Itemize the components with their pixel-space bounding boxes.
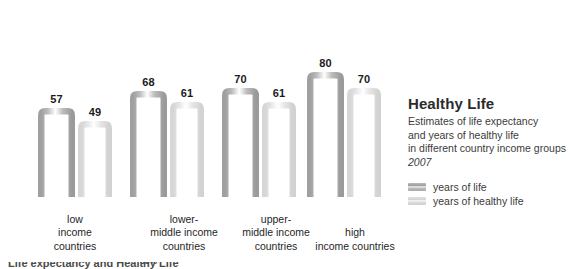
chart-subtitle-line-3: in different country income groups <box>408 142 573 156</box>
bar-shape-icon <box>222 88 259 197</box>
legend-label: years of healthy life <box>433 195 523 208</box>
chart-subtitle-line-1: Estimates of life expectancy <box>408 115 573 129</box>
bar-value-label: 49 <box>78 106 112 118</box>
category-label-line: upper- <box>210 213 342 227</box>
bar-value-label: 68 <box>130 76 167 88</box>
legend-swatch-light-icon <box>408 197 426 205</box>
bar-shape-icon <box>347 88 381 197</box>
bar-shape-icon <box>38 108 75 197</box>
category-label: lowincomecountries <box>30 213 120 254</box>
bar: 70 <box>222 88 259 197</box>
bar-chart: 5768708049616170lowincomecountrieslower-… <box>0 0 400 269</box>
legend-item-years-of-healthy-life: years of healthy life <box>408 194 573 208</box>
bar-value-label: 57 <box>38 93 75 105</box>
category-label-line: income countries <box>300 240 410 254</box>
bar: 80 <box>307 72 344 197</box>
legend-swatch-dark-icon <box>408 183 426 191</box>
bar-value-label: 70 <box>347 73 381 85</box>
bar-value-label: 61 <box>170 87 204 99</box>
bar-shape-icon <box>262 102 296 197</box>
bar-shape-icon <box>170 102 204 197</box>
bar-shape-icon <box>307 72 344 197</box>
chart-year: 2007 <box>408 156 573 170</box>
bar: 57 <box>38 108 75 197</box>
chart-subtitle-line-2: and years of healthy life <box>408 129 573 143</box>
legend-item-years-of-life: years of life <box>408 180 573 194</box>
category-label-line: countries <box>30 240 120 254</box>
category-label: highincome countries <box>300 226 410 253</box>
chart-title: Healthy Life <box>408 95 573 113</box>
info-panel: Healthy Life Estimates of life expectanc… <box>408 95 573 208</box>
category-label-line: high <box>300 226 410 240</box>
bar-value-label: 70 <box>222 73 259 85</box>
footer-percent: 85% <box>140 262 157 266</box>
legend: years of life years of healthy life <box>408 180 573 208</box>
bar-shape-icon <box>130 91 167 197</box>
category-label-line: low <box>30 213 120 227</box>
bar: 61 <box>170 102 204 197</box>
category-label-line: income <box>30 226 120 240</box>
bar-value-label: 80 <box>307 57 344 69</box>
bar-value-label: 61 <box>262 87 296 99</box>
bar: 49 <box>78 121 112 197</box>
bar-shape-icon <box>78 121 112 197</box>
bar: 68 <box>130 91 167 197</box>
legend-label: years of life <box>433 181 487 194</box>
bar: 61 <box>262 102 296 197</box>
footer-strip: Life expectancy and Healthy Life 85% <box>0 262 573 269</box>
bar: 70 <box>347 88 381 197</box>
